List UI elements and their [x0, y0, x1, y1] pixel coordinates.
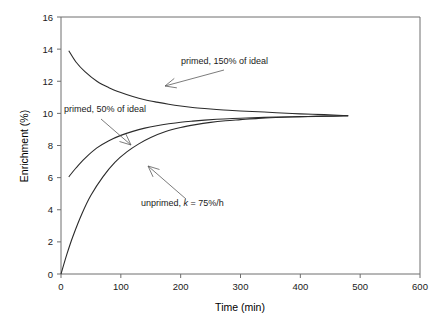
- x-axis-title: Time (min): [215, 301, 265, 313]
- annotation-arrowhead: [165, 86, 177, 88]
- y-axis-ticks: [57, 17, 61, 274]
- x-tick-label: 0: [58, 281, 63, 292]
- x-tick-label: 100: [113, 281, 129, 292]
- y-tick-label: 14: [42, 44, 53, 55]
- x-tick-label: 200: [173, 281, 189, 292]
- annotation-unprimed-prefix: unprimed,: [141, 198, 184, 208]
- annotation-leaders: [101, 70, 224, 199]
- y-tick-label: 0: [48, 269, 53, 280]
- enrichment-vs-time-chart: 0246810121416 0100200300400500600 Time (…: [0, 0, 437, 332]
- y-tick-label: 6: [48, 172, 53, 183]
- y-tick-label: 12: [42, 76, 53, 87]
- y-axis-title: Enrichment (%): [18, 110, 30, 182]
- annotation-primed-50: primed, 50% of ideal: [64, 104, 146, 114]
- data-series-group: [61, 51, 348, 274]
- annotation-primed-150: primed, 150% of ideal: [181, 56, 268, 66]
- annotation-leader-line: [101, 119, 131, 145]
- annotation-unprimed: unprimed, k = 75%/h: [141, 198, 224, 208]
- annotation-leader-line: [148, 166, 186, 199]
- x-axis-tick-labels: 0100200300400500600: [58, 281, 428, 292]
- x-tick-label: 500: [352, 281, 368, 292]
- annotation-leader-line: [165, 70, 224, 86]
- y-tick-label: 4: [48, 204, 53, 215]
- y-tick-label: 10: [42, 108, 53, 119]
- y-tick-label: 8: [48, 140, 53, 151]
- x-tick-label: 600: [412, 281, 428, 292]
- y-tick-label: 16: [42, 12, 53, 23]
- x-tick-label: 300: [233, 281, 249, 292]
- x-tick-label: 400: [292, 281, 308, 292]
- series-line: [61, 116, 348, 274]
- y-tick-label: 2: [48, 236, 53, 247]
- annotation-unprimed-suffix: = 75%/h: [188, 198, 224, 208]
- chart-figure: 0246810121416 0100200300400500600 Time (…: [0, 0, 437, 332]
- y-axis-tick-labels: 0246810121416: [42, 12, 53, 280]
- x-axis-ticks: [61, 274, 420, 278]
